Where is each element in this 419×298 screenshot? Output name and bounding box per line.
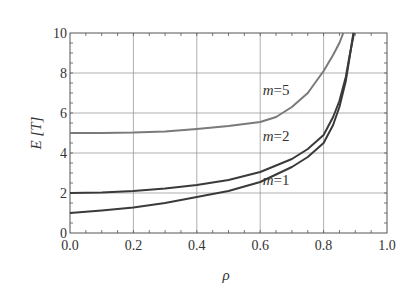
x-tick-label: 1.0 [378,238,396,253]
curve-labels: m=5m=2m=1 [263,82,290,188]
line-chart: m=5m=2m=1 0.00.20.40.60.81.0 0246810 ρ E… [0,0,419,298]
curve-label: m=5 [263,82,290,98]
y-tick-label: 4 [60,146,67,161]
y-tick-labels: 0246810 [53,26,67,241]
x-axis-label: ρ [221,267,229,283]
series-m-5 [70,33,343,133]
curve-label: m=1 [263,172,290,188]
x-tick-labels: 0.00.20.40.60.81.0 [61,238,396,253]
y-tick-label: 6 [60,106,67,121]
y-tick-label: 0 [60,226,67,241]
x-tick-label: 0.8 [315,238,333,253]
y-tick-label: 10 [53,26,67,41]
data-series [70,33,354,213]
y-axis-label: E [T] [28,116,44,150]
x-tick-label: 0.4 [188,238,206,253]
y-tick-label: 2 [60,186,67,201]
x-tick-label: 0.2 [125,238,143,253]
series-m-1 [70,33,353,213]
x-tick-label: 0.6 [251,238,269,253]
y-tick-label: 8 [60,66,67,81]
curve-label: m=2 [263,128,290,144]
